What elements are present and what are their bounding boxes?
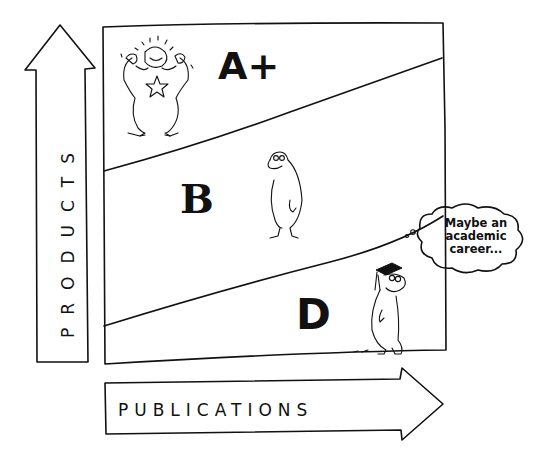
grade-d: D: [296, 290, 331, 339]
thought-line-3: career...: [426, 243, 526, 256]
grade-a-plus: A+: [218, 44, 279, 88]
graduate-character-icon: [354, 230, 415, 354]
thought-bubble-text: Maybe an academic career...: [426, 217, 526, 256]
neutral-character-icon: [268, 152, 302, 238]
y-axis-label: PRODUCTS: [58, 140, 78, 338]
grade-b: B: [180, 175, 214, 222]
x-axis-label: PUBLICATIONS: [118, 400, 313, 420]
flexing-character-icon: [121, 36, 193, 136]
